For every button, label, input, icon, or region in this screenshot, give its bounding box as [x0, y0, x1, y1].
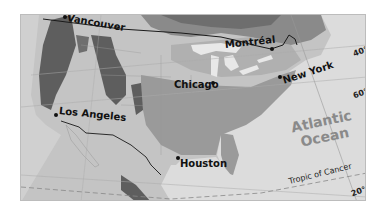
city-label-houston: Houston — [180, 158, 227, 169]
map-frame: Vancouver Montréal Chicago New York Los … — [20, 14, 366, 201]
city-label-chicago: Chicago — [174, 79, 219, 90]
city-dot-montreal — [270, 47, 274, 51]
city-dot-los-angeles — [54, 113, 58, 117]
